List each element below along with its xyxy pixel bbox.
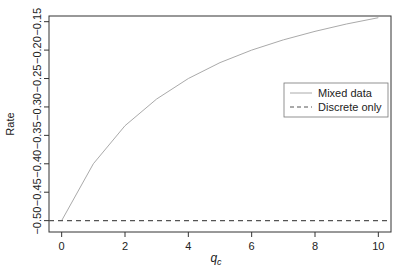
y-axis-label: Rate bbox=[4, 112, 16, 135]
plot-frame bbox=[49, 16, 391, 232]
x-axis-label-sub: c bbox=[217, 257, 222, 267]
y-tick-label: −0.45 bbox=[31, 178, 43, 206]
x-tick-label: 6 bbox=[249, 240, 255, 252]
x-tick-label: 4 bbox=[185, 240, 191, 252]
y-tick-label: −0.40 bbox=[31, 150, 43, 178]
x-axis-label: qc bbox=[210, 251, 222, 267]
y-axis: −0.50−0.45−0.40−0.35−0.30−0.25−0.20−0.15 bbox=[31, 8, 49, 235]
y-tick-label: −0.30 bbox=[31, 93, 43, 121]
y-tick-label: −0.20 bbox=[31, 36, 43, 64]
series-group bbox=[49, 18, 391, 221]
x-tick-label: 10 bbox=[372, 240, 384, 252]
rate-vs-qc-chart: −0.50−0.45−0.40−0.35−0.30−0.25−0.20−0.15… bbox=[0, 0, 403, 274]
x-tick-label: 0 bbox=[59, 240, 65, 252]
y-tick-label: −0.35 bbox=[31, 121, 43, 149]
legend-discrete-label: Discrete only bbox=[318, 101, 382, 113]
legend-mixed-label: Mixed data bbox=[318, 87, 373, 99]
mixed-data-line bbox=[62, 18, 379, 221]
y-tick-label: −0.50 bbox=[31, 207, 43, 235]
y-tick-label: −0.15 bbox=[31, 8, 43, 36]
y-tick-label: −0.25 bbox=[31, 65, 43, 93]
x-tick-label: 2 bbox=[122, 240, 128, 252]
x-tick-label: 8 bbox=[312, 240, 318, 252]
legend: Mixed data Discrete only bbox=[284, 83, 388, 117]
x-axis: 0246810 bbox=[59, 232, 385, 252]
